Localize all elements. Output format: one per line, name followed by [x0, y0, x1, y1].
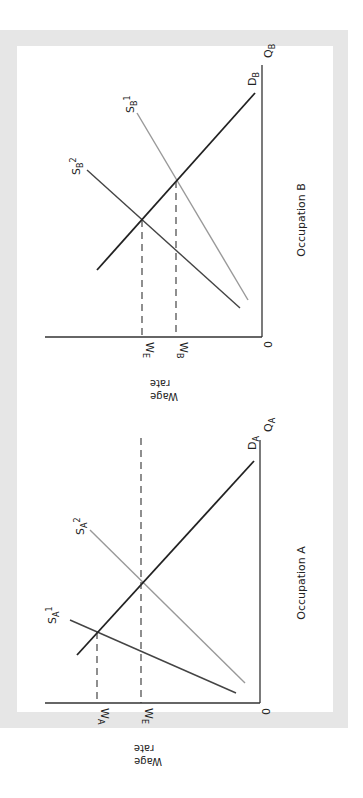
origin-label-b: 0	[262, 341, 275, 348]
panel-title-a: Occupation A	[295, 546, 308, 620]
labor-market-figure: Occupation B QB DB SB1 SB2 0 WE WB rate …	[0, 0, 363, 798]
panel-title-b: Occupation B	[295, 183, 308, 257]
wage-axis-title-b-line1: rate	[150, 378, 170, 389]
wage-axis-title-a-line1: rate	[134, 743, 154, 754]
origin-label-a: 0	[260, 708, 273, 715]
figure-panel	[17, 46, 333, 712]
wage-axis-title-b-line2: Wage	[150, 391, 178, 402]
wage-axis-title-a-line2: Wage	[134, 756, 162, 767]
